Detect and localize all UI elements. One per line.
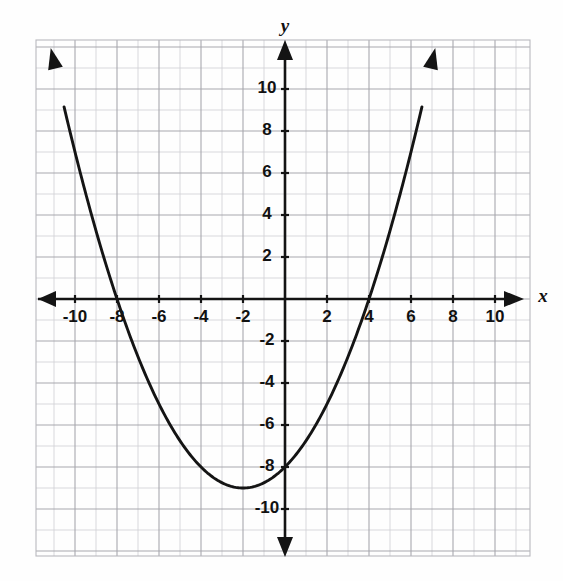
figure-background	[0, 0, 563, 581]
x-tick-label: 6	[406, 307, 415, 326]
y-tick-label: -6	[259, 414, 274, 433]
x-tick-label: -6	[151, 307, 166, 326]
x-tick-label: -4	[193, 307, 209, 326]
graph-svg: -10-8-6-4-2246810 108642-2-4-6-8-10 x y	[0, 0, 563, 581]
x-tick-label: 10	[486, 307, 505, 326]
x-axis-label: x	[537, 285, 548, 306]
y-tick-label: -10	[255, 498, 280, 517]
x-tick-label: -2	[235, 307, 250, 326]
y-tick-label: -8	[259, 456, 274, 475]
y-tick-label: 10	[258, 78, 277, 97]
x-tick-label: -10	[63, 307, 88, 326]
x-tick-label: 2	[322, 307, 331, 326]
y-tick-label: 2	[262, 246, 271, 265]
y-tick-label: -2	[259, 330, 274, 349]
x-tick-label: 8	[448, 307, 457, 326]
y-tick-label: 6	[262, 162, 271, 181]
y-tick-label: -4	[259, 372, 275, 391]
coordinate-plane-figure: -10-8-6-4-2246810 108642-2-4-6-8-10 x y	[0, 0, 563, 581]
y-axis-label: y	[279, 15, 290, 36]
y-tick-label: 4	[262, 204, 272, 223]
y-tick-label: 8	[262, 120, 271, 139]
